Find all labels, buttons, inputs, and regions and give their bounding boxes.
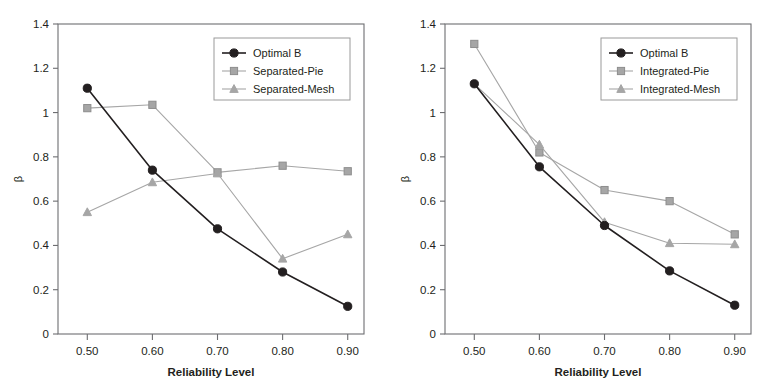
- series-optimal-b: [470, 80, 739, 310]
- x-tick-label: 0.90: [337, 345, 359, 357]
- x-axis-title: Reliability Level: [555, 366, 642, 378]
- x-tick-label: 0.90: [724, 345, 746, 357]
- chart-panel-right: 00.20.40.60.811.21.40.500.600.700.800.90…: [387, 0, 774, 389]
- plot-right: 00.20.40.60.811.21.40.500.600.700.800.90…: [399, 18, 751, 378]
- plot-left: 00.20.40.60.811.21.40.500.600.700.800.90…: [12, 18, 364, 378]
- data-point-circle: [617, 49, 625, 57]
- figure-root: 00.20.40.60.811.21.40.500.600.700.800.90…: [0, 0, 775, 389]
- series-line: [474, 84, 734, 305]
- data-point-circle: [731, 301, 739, 309]
- legend-item-optimal-b[interactable]: Optimal B: [609, 47, 688, 59]
- y-tick-label: 0.2: [33, 284, 49, 296]
- data-point-square: [149, 101, 156, 108]
- x-tick-label: 0.50: [76, 345, 98, 357]
- data-point-circle: [344, 302, 352, 310]
- data-point-square: [666, 198, 673, 205]
- y-axis-title: β: [399, 176, 411, 182]
- y-tick-label: 0: [43, 328, 49, 340]
- data-point-square: [601, 186, 608, 193]
- data-point-square: [344, 168, 351, 175]
- data-point-circle: [230, 49, 238, 57]
- y-tick-label: 0: [430, 328, 436, 340]
- data-point-square: [617, 67, 624, 74]
- x-tick-label: 0.60: [141, 345, 163, 357]
- data-point-square: [731, 231, 738, 238]
- series-separated-mesh: [83, 169, 352, 262]
- y-tick-label: 0.4: [420, 239, 437, 251]
- y-axis-title: β: [12, 176, 24, 182]
- y-tick-label: 1.4: [420, 18, 437, 30]
- legend-label: Separated-Mesh: [253, 83, 334, 95]
- data-point-triangle: [344, 230, 352, 238]
- y-tick-label: 0.8: [33, 151, 49, 163]
- chart-panel-left: 00.20.40.60.811.21.40.500.600.700.800.90…: [0, 0, 387, 389]
- data-point-circle: [470, 80, 478, 88]
- y-tick-label: 0.4: [33, 239, 50, 251]
- legend-label: Optimal B: [253, 47, 301, 59]
- x-tick-label: 0.80: [658, 345, 680, 357]
- series-line: [87, 173, 347, 258]
- y-tick-label: 1: [43, 107, 49, 119]
- data-point-triangle: [83, 208, 91, 216]
- series-separated-pie: [84, 101, 352, 176]
- data-point-square: [279, 162, 286, 169]
- data-point-circle: [213, 225, 221, 233]
- data-point-circle: [535, 163, 543, 171]
- x-tick-label: 0.50: [463, 345, 485, 357]
- series-optimal-b: [83, 84, 352, 310]
- y-tick-label: 0.2: [420, 284, 436, 296]
- legend-label: Integrated-Pie: [640, 65, 709, 77]
- data-point-circle: [666, 267, 674, 275]
- x-tick-label: 0.60: [528, 345, 550, 357]
- data-point-square: [230, 67, 237, 74]
- y-tick-label: 1: [430, 107, 436, 119]
- series-line: [87, 88, 347, 306]
- chart-svg-right: 00.20.40.60.811.21.40.500.600.700.800.90…: [387, 0, 774, 389]
- data-point-circle: [148, 166, 156, 174]
- y-tick-label: 1.2: [33, 62, 49, 74]
- y-tick-label: 0.6: [420, 195, 436, 207]
- y-tick-label: 0.8: [420, 151, 436, 163]
- data-point-square: [471, 40, 478, 47]
- x-axis-title: Reliability Level: [168, 366, 255, 378]
- data-point-circle: [279, 268, 287, 276]
- x-tick-label: 0.80: [271, 345, 293, 357]
- legend-label: Separated-Pie: [253, 65, 323, 77]
- legend-label: Optimal B: [640, 47, 688, 59]
- y-tick-label: 1.2: [420, 62, 436, 74]
- data-point-square: [84, 105, 91, 112]
- y-tick-label: 1.4: [33, 18, 50, 30]
- y-tick-label: 0.6: [33, 195, 49, 207]
- legend-label: Integrated-Mesh: [640, 83, 720, 95]
- x-tick-label: 0.70: [206, 345, 228, 357]
- legend-item-optimal-b[interactable]: Optimal B: [222, 47, 301, 59]
- data-point-circle: [83, 84, 91, 92]
- x-tick-label: 0.70: [593, 345, 615, 357]
- data-point-circle: [600, 221, 608, 229]
- chart-svg-left: 00.20.40.60.811.21.40.500.600.700.800.90…: [0, 0, 387, 389]
- data-point-square: [536, 149, 543, 156]
